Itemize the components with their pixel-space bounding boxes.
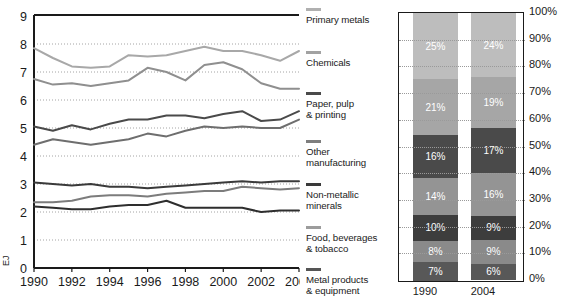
legend-swatch-icon xyxy=(306,92,321,95)
y-axis-unit-label: EJ xyxy=(1,255,11,266)
legend-item-label: Chemicals xyxy=(306,57,394,68)
line-series-chemicals xyxy=(34,47,299,68)
legend-swatch-icon xyxy=(306,183,321,186)
chart-legend: Primary metalsChemicalsPaper, pulp & pri… xyxy=(306,4,394,296)
legend-item-label: Other manufacturing xyxy=(306,146,394,169)
legend-item-label: Paper, pulp & printing xyxy=(306,98,394,121)
bar-segment: 6% xyxy=(471,264,516,280)
legend-item-label: Food, beverages & tobacco xyxy=(306,232,394,255)
bar-chart-gridline xyxy=(399,93,525,94)
line-chart-y-tick-label: 6 xyxy=(20,94,27,108)
bar-chart-gridline xyxy=(399,173,525,174)
line-chart-y-tick-label: 2 xyxy=(20,206,27,220)
bar-category-label: 2004 xyxy=(453,285,513,297)
bar-segment: 8% xyxy=(413,241,458,262)
chart-figure: 0123456789199019921994199619982000200220… xyxy=(0,0,571,299)
bar-chart-y-tick-label: 80% xyxy=(529,58,569,70)
bar-chart-gridline xyxy=(399,227,525,228)
line-chart-y-tick-label: 7 xyxy=(20,66,27,80)
bar-chart-gridline xyxy=(399,120,525,121)
line-chart-y-tick-label: 9 xyxy=(20,10,27,24)
legend-swatch-icon xyxy=(306,51,321,54)
line-chart-y-tick-label: 3 xyxy=(20,178,27,192)
line-chart-x-tick-label: 1998 xyxy=(172,275,200,289)
bar-chart-y-tick-label: 60% xyxy=(529,112,569,124)
bar-chart-gridline xyxy=(399,40,525,41)
stacked-bar-panel: 25%21%16%14%10%8%7% 24%19%17%16%9%9%6% 1… xyxy=(396,0,571,299)
line-chart-x-tick-label: 2004 xyxy=(285,275,300,289)
legend-item-label: Metal products & equipment xyxy=(306,274,394,297)
bar-segment: 16% xyxy=(413,135,458,177)
line-chart-x-tick-label: 1996 xyxy=(134,275,162,289)
line-chart-x-tick-label: 1992 xyxy=(58,275,86,289)
line-chart-x-tick-label: 2002 xyxy=(247,275,275,289)
bar-chart-y-tick-label: 70% xyxy=(529,85,569,97)
legend-item: Paper, pulp & printing xyxy=(306,92,394,121)
bar-segment: 16% xyxy=(471,173,516,216)
bar-chart-y-tick-label: 40% xyxy=(529,165,569,177)
legend-item: Primary metals xyxy=(306,8,394,25)
legend-item-label: Primary metals xyxy=(306,14,394,25)
bar-chart-y-tick-label: 10% xyxy=(529,245,569,257)
bar-chart-gridline xyxy=(399,66,525,67)
legend-item: Chemicals xyxy=(306,51,394,68)
legend-swatch-icon xyxy=(306,268,321,271)
legend-item: Non-metallic minerals xyxy=(306,183,394,212)
line-chart-panel: 0123456789199019921994199619982000200220… xyxy=(0,0,300,299)
line-chart-svg: 0123456789199019921994199619982000200220… xyxy=(0,0,300,299)
line-chart-y-tick-label: 8 xyxy=(20,38,27,52)
bar-chart-gridline xyxy=(399,200,525,201)
legend-item: Metal products & equipment xyxy=(306,268,394,297)
bar-segment: 21% xyxy=(413,79,458,135)
bar-chart-y-tick-label: 30% xyxy=(529,192,569,204)
bar-chart-y-tick-label: 90% xyxy=(529,32,569,44)
legend-swatch-icon xyxy=(306,226,321,229)
legend-item: Other manufacturing xyxy=(306,140,394,169)
line-series-metal-products-equipment xyxy=(34,201,299,212)
stacked-bar-plot: 25%21%16%14%10%8%7% 24%19%17%16%9%9%6% xyxy=(398,12,524,282)
bar-chart-gridline xyxy=(399,147,525,148)
bar-segment: 17% xyxy=(471,128,516,173)
bar-segment: 9% xyxy=(471,240,516,264)
bar-chart-y-tick-label: 20% xyxy=(529,219,569,231)
bar-chart-y-tick-label: 0% xyxy=(529,272,569,284)
bar-segment: 14% xyxy=(413,178,458,215)
bar-segment: 10% xyxy=(413,215,458,242)
line-chart-y-tick-label: 5 xyxy=(20,122,27,136)
line-series-paper-pulp-printing xyxy=(34,120,299,145)
line-chart-y-tick-label: 0 xyxy=(20,262,27,276)
line-chart-y-tick-label: 4 xyxy=(20,150,27,164)
legend-swatch-icon xyxy=(306,140,321,143)
bar-segment: 25% xyxy=(413,13,458,79)
bar-chart-y-tick-label: 100% xyxy=(529,5,569,17)
bar-segment: 9% xyxy=(471,216,516,240)
bar-segment: 7% xyxy=(413,262,458,281)
line-chart-y-tick-label: 1 xyxy=(20,234,27,248)
bar-segment: 24% xyxy=(471,13,516,77)
line-chart-x-tick-label: 1990 xyxy=(20,275,48,289)
line-chart-x-tick-label: 1994 xyxy=(96,275,124,289)
bar-chart-y-tick-label: 50% xyxy=(529,139,569,151)
legend-item-label: Non-metallic minerals xyxy=(306,189,394,212)
legend-swatch-icon xyxy=(306,8,321,11)
legend-item: Food, beverages & tobacco xyxy=(306,226,394,255)
bar-chart-gridline xyxy=(399,253,525,254)
bar-category-label: 1990 xyxy=(395,285,455,297)
line-chart-x-tick-label: 2000 xyxy=(209,275,237,289)
